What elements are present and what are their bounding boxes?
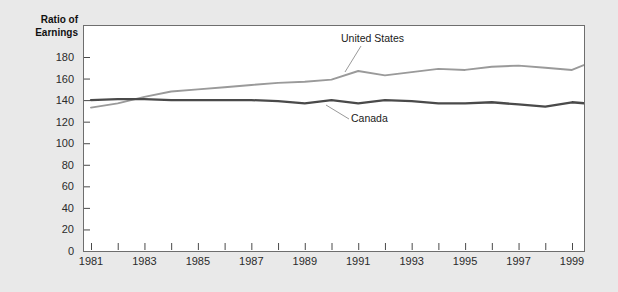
y-tick-label: 60 [2, 181, 74, 192]
chart-figure: Ratio of Earnings 0204060801001201401601… [0, 0, 618, 292]
series-line-canada [91, 99, 584, 107]
y-tick-label: 180 [2, 52, 74, 63]
x-tick-label: 1993 [399, 256, 423, 267]
series-label-united-states: United States [341, 33, 404, 44]
series-label-canada: Canada [351, 113, 388, 124]
y-tick-label: 100 [2, 138, 74, 149]
leader-line-united-states [345, 46, 361, 72]
y-tick-label: 0 [2, 246, 74, 257]
plot-area [83, 25, 585, 252]
y-tick-label: 80 [2, 160, 74, 171]
y-tick-label: 140 [2, 95, 74, 106]
x-tick-label: 1983 [132, 256, 156, 267]
y-tick-label: 120 [2, 117, 74, 128]
y-tick-label: 20 [2, 224, 74, 235]
y-axis-title: Ratio of Earnings [0, 14, 78, 39]
x-tick-label: 1989 [293, 256, 317, 267]
y-tick-label: 160 [2, 74, 74, 85]
x-tick-label: 1991 [346, 256, 370, 267]
x-tick-label: 1997 [506, 256, 530, 267]
x-tick-label: 1995 [453, 256, 477, 267]
x-tick-label: 1987 [239, 256, 263, 267]
x-tick-label: 1981 [79, 256, 103, 267]
leader-line-canada [326, 105, 349, 119]
x-tick-label: 1999 [560, 256, 584, 267]
chart-canvas [84, 26, 584, 251]
y-tick-label: 40 [2, 203, 74, 214]
x-tick-label: 1985 [186, 256, 210, 267]
